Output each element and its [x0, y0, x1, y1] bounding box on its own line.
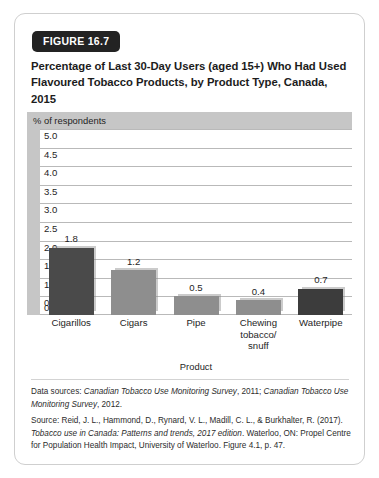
bar-column[interactable]: 1.2 [111, 129, 156, 315]
figure-title: Percentage of Last 30-Day Users (aged 15… [31, 58, 351, 107]
bar-value-label: 0.4 [236, 287, 281, 297]
source-italic: Tobacco use in Canada: Patterns and tren… [31, 429, 242, 438]
bar[interactable] [236, 300, 281, 315]
plot-outer: 5.04.54.03.53.02.52.01.51.00.50.0 1.81.2… [27, 129, 352, 315]
bar[interactable] [111, 270, 156, 315]
bar-value-label: 1.2 [111, 257, 156, 267]
bar-column[interactable]: 0.7 [298, 129, 343, 315]
plot-left-strip [27, 129, 40, 315]
data-sources-end: , 2012. [97, 400, 122, 409]
bar-column[interactable]: 0.4 [236, 129, 281, 315]
data-sources-note: Data sources: Canadian Tobacco Use Monit… [31, 386, 351, 411]
footer-divider [31, 379, 349, 380]
bar[interactable] [174, 296, 219, 315]
bar[interactable] [298, 289, 343, 315]
bar-value-label: 0.7 [298, 275, 343, 285]
figure-card: FIGURE 16.7 Percentage of Last 30-Day Us… [14, 13, 365, 465]
x-axis-title: Product [40, 361, 352, 372]
x-tick-label: Cigarillos [40, 317, 102, 329]
bar[interactable] [49, 248, 94, 315]
x-tick-label: Cigars [102, 317, 164, 329]
source-prefix: Source: Reid, J. L., Hammond, D., Rynard… [31, 416, 343, 425]
bar-value-label: 0.5 [174, 283, 219, 293]
bar-value-label: 1.8 [49, 234, 94, 244]
x-tick-label: Pipe [165, 317, 227, 329]
chart-header-band: % of respondents [27, 112, 352, 129]
source-note: Source: Reid, J. L., Hammond, D., Rynard… [31, 415, 351, 453]
data-sources-mid-1: , 2011; [237, 387, 264, 396]
x-tick-label: Chewingtobacco/snuff [227, 317, 289, 352]
bar-chart: % of respondents 5.04.54.03.53.02.52.01.… [27, 112, 352, 377]
data-sources-italic-1: Canadian Tobacco Use Monitoring Survey [84, 387, 237, 396]
x-tick-label: Waterpipe [290, 317, 352, 329]
x-axis-labels: CigarillosCigarsPipeChewingtobacco/snuff… [40, 317, 352, 361]
bar-column[interactable]: 1.8 [49, 129, 94, 315]
data-sources-prefix: Data sources: [31, 387, 84, 396]
y-axis-title: % of respondents [33, 115, 106, 126]
figure-number-badge: FIGURE 16.7 [32, 31, 120, 52]
bars-layer: 1.81.20.50.40.7 [40, 129, 352, 315]
bar-column[interactable]: 0.5 [174, 129, 219, 315]
